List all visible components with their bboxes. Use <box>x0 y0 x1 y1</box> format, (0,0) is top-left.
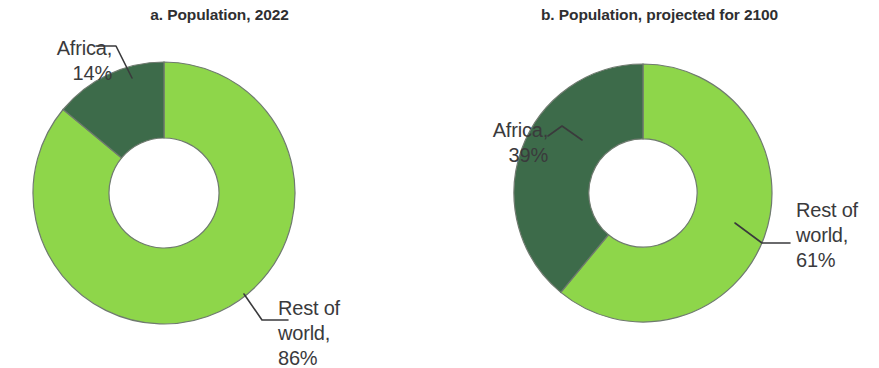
figure-root: a. Population, 2022 Africa, 14% Rest of … <box>0 0 879 368</box>
label-africa-b: Africa, 39% <box>408 118 548 168</box>
label-rest-of-world-a: Rest of world, 86% <box>278 296 428 368</box>
donut-chart-b <box>440 0 879 368</box>
chart-panel-b: b. Population, projected for 2100 Africa… <box>440 0 879 368</box>
label-rest-of-world-b: Rest of world, 61% <box>796 198 879 273</box>
chart-panel-a: a. Population, 2022 Africa, 14% Rest of … <box>0 0 439 368</box>
label-africa-a: Africa, 14% <box>6 36 112 86</box>
